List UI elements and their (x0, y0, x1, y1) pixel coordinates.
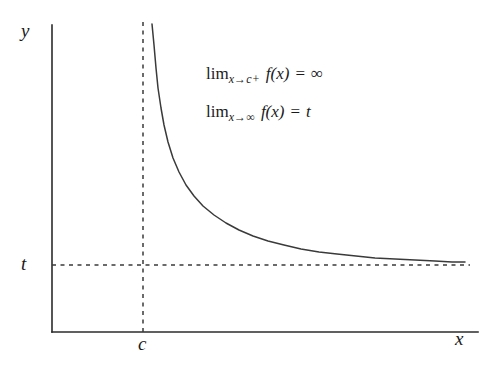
limit-subscript-target-2: ∞ (246, 110, 255, 124)
x-tick-label-c: c (138, 334, 146, 353)
limit-arrow-2: → (234, 110, 246, 124)
limit-arrow-1: → (234, 72, 246, 86)
limit-value-t: t (306, 102, 311, 121)
limit-subscript-target-1: c+ (246, 72, 260, 86)
limit-value-infinity: ∞ (311, 64, 323, 83)
limit-annotation-right-hand: limx→c+f(x)=∞ (206, 65, 323, 85)
limit-function-2: f(x) (261, 102, 285, 121)
limit-operator-2: lim (206, 102, 229, 121)
y-axis-label: y (21, 21, 29, 40)
function-curve (152, 24, 465, 262)
limit-equals-2: = (290, 102, 300, 121)
limit-function-1: f(x) (266, 64, 290, 83)
limit-equals-1: = (295, 64, 305, 83)
limit-operator-1: lim (206, 64, 229, 83)
y-tick-label-t: t (21, 254, 26, 273)
limit-annotation-at-infinity: limx→∞f(x)=t (206, 103, 311, 123)
function-graph-figure: y x t c limx→c+f(x)=∞ limx→∞f(x)=t (0, 0, 496, 374)
x-axis-label: x (455, 329, 463, 348)
graph-canvas (0, 0, 496, 374)
